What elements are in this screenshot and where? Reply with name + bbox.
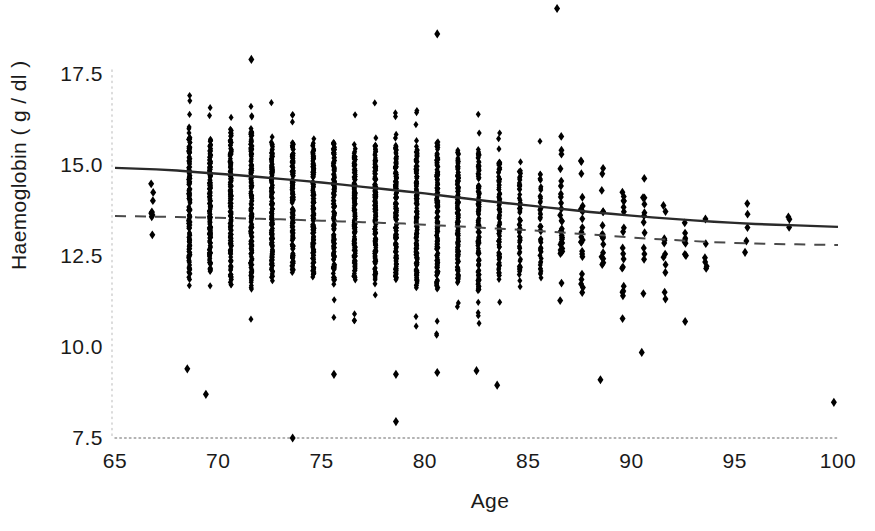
x-tick-label: 80 <box>413 449 437 473</box>
x-tick-label: 70 <box>206 449 230 473</box>
x-axis-title: Age <box>471 489 510 513</box>
x-tick-label: 75 <box>309 449 333 473</box>
y-axis-title: Haemoglobin ( g / dl ) <box>7 220 31 270</box>
x-tick-label: 95 <box>723 449 747 473</box>
y-tick-label: 15.0 <box>60 153 103 177</box>
haemoglobin-age-scatter-figure: 7.510.012.515.017.5 65707580859095100 Ha… <box>0 0 875 531</box>
y-tick-label: 17.5 <box>60 62 103 86</box>
x-tick-label: 90 <box>619 449 643 473</box>
trend-lines-layer <box>115 168 838 245</box>
y-tick-label: 7.5 <box>72 426 103 450</box>
x-tick-label: 100 <box>820 449 857 473</box>
x-tick-label: 65 <box>103 449 127 473</box>
y-tick-label: 12.5 <box>60 244 103 268</box>
y-tick-label: 10.0 <box>60 335 103 359</box>
x-tick-label: 85 <box>516 449 540 473</box>
axis-lines <box>112 70 838 438</box>
